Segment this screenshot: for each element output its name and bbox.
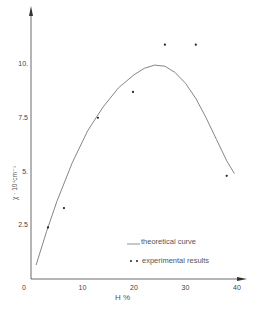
data-point [164, 44, 166, 46]
experimental-points [47, 44, 228, 229]
data-point [63, 207, 65, 209]
chart: 2.55.7.510. 10203040 0 H % χ · 10⁴cm⁻¹ t… [0, 0, 257, 313]
x-tick-label: 10 [79, 284, 87, 291]
legend-line-label: theoretical curve [141, 237, 196, 246]
data-point [195, 44, 197, 46]
y-tick-label: 2.5 [18, 221, 28, 228]
y-axis-label: χ · 10⁴cm⁻¹ [11, 165, 19, 200]
data-point [47, 226, 49, 228]
y-tick-label: 10. [18, 60, 28, 67]
legend-dot-icon [130, 260, 132, 262]
y-ticks: 2.55.7.510. [18, 60, 28, 228]
x-tick-label: 40 [233, 284, 241, 291]
x-tick-label: 30 [182, 284, 190, 291]
data-point [226, 175, 228, 177]
x-axis-label: H % [115, 293, 130, 302]
theoretical-curve [36, 65, 234, 265]
x-tick-label: 20 [130, 284, 138, 291]
data-point [97, 117, 99, 119]
origin-label: 0 [22, 284, 26, 291]
legend: theoretical curve experimental results [127, 237, 209, 265]
y-axis-arrow-icon [29, 6, 33, 16]
x-ticks: 10203040 [79, 284, 241, 291]
x-axis-arrow-icon [237, 277, 247, 281]
y-tick-label: 7.5 [18, 114, 28, 121]
y-tick-label: 5. [22, 168, 28, 175]
legend-dots-label: experimental results [142, 256, 209, 265]
data-point [132, 91, 134, 93]
legend-dot-icon [136, 260, 138, 262]
